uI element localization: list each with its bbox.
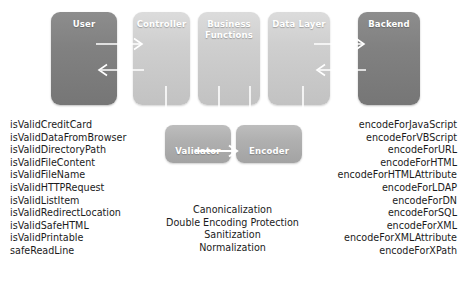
list-item: Canonicalization xyxy=(0,204,465,217)
list-item: encodeForJavaScript xyxy=(338,119,457,132)
list-item: encodeForHTML xyxy=(338,157,457,170)
list-item: encodeForURL xyxy=(338,144,457,157)
layer-label-data-layer: Data Layer xyxy=(268,19,330,30)
arrow-backend-to-datalayer xyxy=(312,64,368,76)
layer-label-controller: Controller xyxy=(133,19,190,30)
component-label-encoder: Encoder xyxy=(236,146,302,156)
list-item: isValidFileName xyxy=(10,169,126,182)
layer-box-user[interactable]: User xyxy=(51,12,117,105)
list-item: isValidDataFromBrowser xyxy=(10,132,126,145)
arrow-datalayer-to-backend xyxy=(314,38,370,50)
arrow-validator-to-encoder xyxy=(195,145,243,157)
list-item: encodeForVBScript xyxy=(338,132,457,145)
layer-label-business-line1: Business xyxy=(207,19,251,29)
list-item: isValidFileContent xyxy=(10,157,126,170)
list-item: Sanitization xyxy=(0,229,465,242)
feature-list: Canonicalization Double Encoding Protect… xyxy=(0,204,465,254)
component-box-validator[interactable]: Validator xyxy=(165,125,231,163)
list-item: isValidDirectoryPath xyxy=(10,144,126,157)
list-item: encodeForLDAP xyxy=(338,182,457,195)
diagram-canvas: User Controller Business Functions Data … xyxy=(0,0,465,297)
list-item: isValidHTTPRequest xyxy=(10,182,126,195)
layer-label-backend: Backend xyxy=(358,19,420,30)
list-item: isValidCreditCard xyxy=(10,119,126,132)
arrow-controller-to-user xyxy=(94,64,146,76)
list-item: Normalization xyxy=(0,242,465,255)
component-box-encoder[interactable]: Encoder xyxy=(236,125,302,163)
layer-box-backend[interactable]: Backend xyxy=(358,12,420,105)
list-item: encodeForHTMLAttribute xyxy=(338,169,457,182)
layer-label-user: User xyxy=(51,19,117,30)
layer-label-business-functions: Business Functions xyxy=(198,19,260,40)
layer-label-business-line2: Functions xyxy=(205,30,253,40)
arrow-user-to-controller xyxy=(96,38,148,50)
list-item: Double Encoding Protection xyxy=(0,217,465,230)
